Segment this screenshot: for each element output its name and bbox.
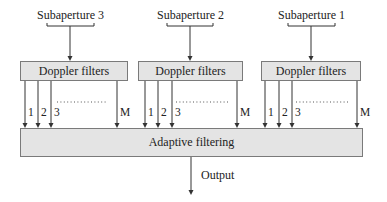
channel-label-3: 3 (175, 106, 181, 118)
subaperture-1-label: Subaperture 1 (278, 8, 345, 22)
channel-label-2: 2 (41, 106, 47, 118)
doppler-filters-box-3: Doppler filters (20, 61, 128, 81)
channel-label-3: 3 (54, 106, 60, 118)
subaperture-2-label: Subaperture 2 (157, 8, 224, 22)
doppler-filters-label: Doppler filters (39, 64, 109, 79)
doppler-filters-box-2: Doppler filters (138, 61, 243, 81)
doppler-filters-label: Doppler filters (276, 64, 346, 79)
channel-label-m: M (360, 106, 370, 118)
channel-label-1: 1 (28, 106, 34, 118)
adaptive-filtering-label: Adaptive filtering (149, 135, 235, 150)
channel-label-m: M (120, 106, 130, 118)
channel-label-1: 1 (148, 106, 154, 118)
adaptive-filtering-box: Adaptive filtering (20, 128, 363, 157)
subaperture-3-label: Subaperture 3 (37, 8, 104, 22)
doppler-filters-label: Doppler filters (155, 64, 225, 79)
doppler-filters-box-1: Doppler filters (261, 61, 361, 81)
channel-label-2: 2 (282, 106, 288, 118)
connector-lines (0, 0, 387, 202)
channel-label-3: 3 (295, 106, 301, 118)
channel-label-2: 2 (161, 106, 167, 118)
output-label: Output (201, 168, 234, 182)
channel-label-1: 1 (268, 106, 274, 118)
channel-label-m: M (240, 106, 250, 118)
